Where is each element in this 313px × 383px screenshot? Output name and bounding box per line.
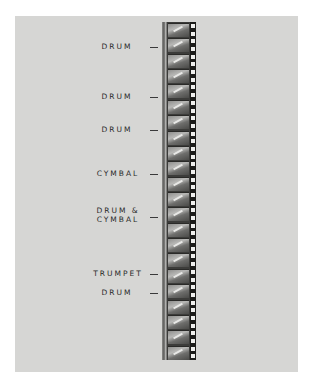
sprocket-hole (191, 270, 195, 274)
film-frame (168, 284, 189, 298)
film-frame (168, 161, 189, 175)
film-frame (168, 84, 189, 98)
tick-cymbal (150, 174, 158, 175)
tick-drum-1 (150, 47, 158, 48)
film-frame (168, 177, 189, 191)
film-frame (168, 69, 189, 83)
sprocket-hole (191, 147, 195, 151)
tick-drum-3 (150, 130, 158, 131)
sprocket-hole (191, 316, 195, 320)
sprocket-hole (191, 139, 195, 143)
sprocket-hole (191, 32, 195, 36)
sprocket-hole (191, 162, 195, 166)
sprocket-hole (191, 101, 195, 105)
film-frames (167, 22, 190, 360)
paper-background (15, 16, 298, 372)
sprocket-hole (191, 201, 195, 205)
film-frame (168, 238, 189, 252)
film-frame (168, 315, 189, 329)
sprocket-hole (191, 124, 195, 128)
sprocket-hole (191, 24, 195, 28)
film-frame (168, 146, 189, 160)
tick-drum-and-cymbal (150, 217, 158, 218)
sprocket-hole (191, 308, 195, 312)
label-drum-3: DRUM (92, 125, 142, 135)
film-frame (168, 115, 189, 129)
film-frame (168, 300, 189, 314)
sprocket-hole (191, 170, 195, 174)
sprocket-hole (191, 93, 195, 97)
sprocket-hole (191, 231, 195, 235)
sprocket-hole (191, 354, 195, 358)
film-frame (168, 269, 189, 283)
film-frame (168, 192, 189, 206)
film-frame (168, 23, 189, 37)
sprocket-hole (191, 178, 195, 182)
film-strip (162, 22, 196, 360)
sprocket-hole (191, 224, 195, 228)
sprocket-hole (191, 262, 195, 266)
tick-trumpet (150, 274, 158, 275)
sprocket-hole (191, 55, 195, 59)
label-drum-4: DRUM (92, 288, 142, 298)
label-drum-2: DRUM (92, 92, 142, 102)
sprocket-hole (191, 324, 195, 328)
label-cymbal: CYMBAL (88, 169, 148, 179)
sprocket-hole (191, 39, 195, 43)
film-frame (168, 38, 189, 52)
sprocket-hole (191, 132, 195, 136)
label-trumpet: TRUMPET (86, 269, 150, 279)
sprocket-hole (191, 78, 195, 82)
sprocket-hole (191, 216, 195, 220)
sprocket-hole (191, 278, 195, 282)
sprocket-hole (191, 62, 195, 66)
sprocket-hole (191, 70, 195, 74)
sprocket-hole (191, 285, 195, 289)
sprocket-hole (191, 301, 195, 305)
sprocket-hole (191, 254, 195, 258)
film-frame (168, 253, 189, 267)
film-frame (168, 131, 189, 145)
sprocket-hole (191, 208, 195, 212)
film-frame (168, 100, 189, 114)
label-drum-1: DRUM (92, 42, 142, 52)
film-frame (168, 207, 189, 221)
sprocket-hole (191, 85, 195, 89)
sprocket-hole (191, 339, 195, 343)
sprocket-hole (191, 185, 195, 189)
film-frame (168, 54, 189, 68)
sprocket-hole (191, 239, 195, 243)
sprocket-hole (191, 193, 195, 197)
sprocket-hole (191, 247, 195, 251)
sprocket-hole (191, 293, 195, 297)
sprocket-hole (191, 47, 195, 51)
film-frame (168, 346, 189, 360)
tick-drum-4 (150, 293, 158, 294)
sprocket-hole (191, 347, 195, 351)
tick-drum-2 (150, 97, 158, 98)
film-frame (168, 223, 189, 237)
sprocket-holes (190, 22, 196, 360)
sprocket-hole (191, 155, 195, 159)
film-frame (168, 330, 189, 344)
sprocket-hole (191, 116, 195, 120)
sprocket-hole (191, 331, 195, 335)
label-drum-and-cymbal-line2: CYMBAL (88, 215, 148, 225)
sprocket-hole (191, 109, 195, 113)
